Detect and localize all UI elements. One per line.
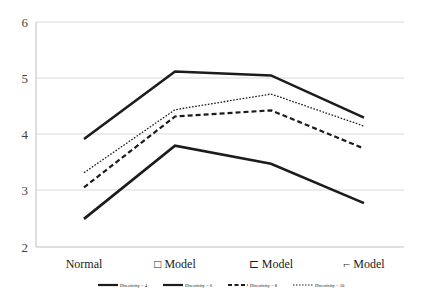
chart-background bbox=[0, 0, 421, 300]
line-chart: 6 5 4 3 2 Normal □ Model ⊏ Model ⌐ Model… bbox=[0, 0, 421, 300]
y-tick-6: 6 bbox=[22, 15, 29, 30]
x-tick-model-3: ⌐ Model bbox=[343, 257, 385, 271]
legend-label-directivity-6: Directivity = 6 bbox=[185, 283, 213, 288]
y-tick-2: 2 bbox=[22, 240, 29, 255]
x-tick-normal: Normal bbox=[66, 257, 103, 271]
legend-label-directivity-4: Directivity = 4 bbox=[120, 283, 148, 288]
x-tick-model-2: ⊏ Model bbox=[249, 257, 294, 271]
y-tick-5: 5 bbox=[22, 71, 29, 86]
x-tick-model-1: □ Model bbox=[154, 257, 196, 271]
legend-label-directivity-10: Directivity = 10 bbox=[315, 283, 345, 288]
legend-label-directivity-8: Directivity = 8 bbox=[250, 283, 278, 288]
y-tick-4: 4 bbox=[22, 127, 29, 142]
y-tick-3: 3 bbox=[22, 183, 29, 198]
chart-canvas: 6 5 4 3 2 Normal □ Model ⊏ Model ⌐ Model… bbox=[0, 0, 421, 300]
